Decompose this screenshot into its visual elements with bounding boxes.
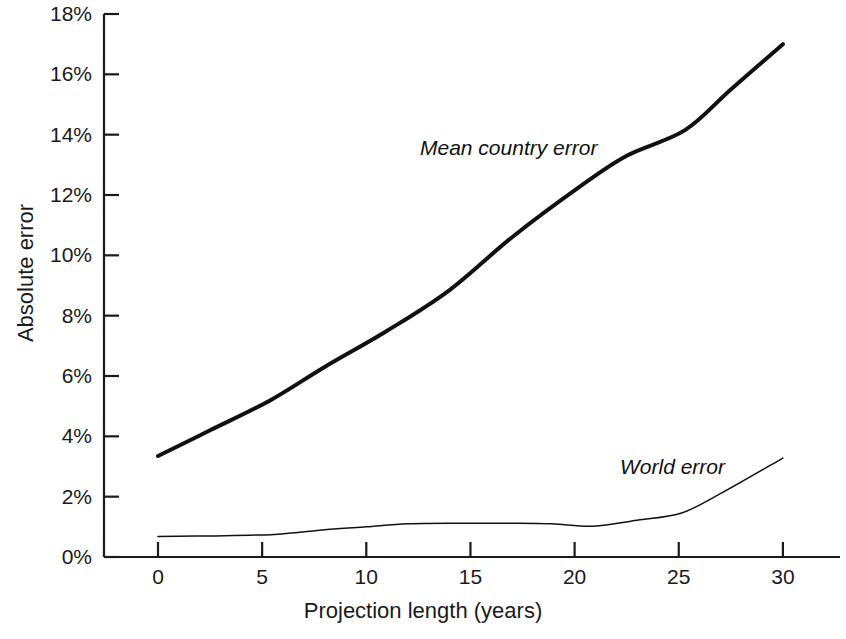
chart-figure: 0%2%4%6%8%10%12%14%16%18% 051015202530 A…	[0, 0, 846, 639]
y-axis-title-wrapper: Absolute error	[13, 173, 39, 373]
series-line-mean-country-error	[158, 44, 783, 456]
y-tick-label: 0%	[0, 545, 92, 569]
chart-plot-area	[0, 0, 846, 639]
y-tick-label: 2%	[0, 485, 92, 509]
x-tick-label: 20	[563, 565, 586, 589]
x-axis-title: Projection length (years)	[0, 598, 846, 624]
y-tick-label: 18%	[0, 2, 92, 26]
axis-lines	[104, 14, 840, 557]
x-tick-label: 15	[459, 565, 482, 589]
y-axis-title: Absolute error	[13, 204, 38, 342]
x-tick-label: 0	[152, 565, 164, 589]
series-label-mean-country-error: Mean country error	[420, 136, 597, 160]
x-tick-label: 30	[771, 565, 794, 589]
x-tick-label: 10	[355, 565, 378, 589]
x-tick-label: 5	[256, 565, 268, 589]
y-tick-label: 14%	[0, 123, 92, 147]
y-tick-label: 16%	[0, 62, 92, 86]
y-tick-label: 4%	[0, 424, 92, 448]
series-label-world-error: World error	[620, 455, 725, 479]
x-tick-label: 25	[667, 565, 690, 589]
